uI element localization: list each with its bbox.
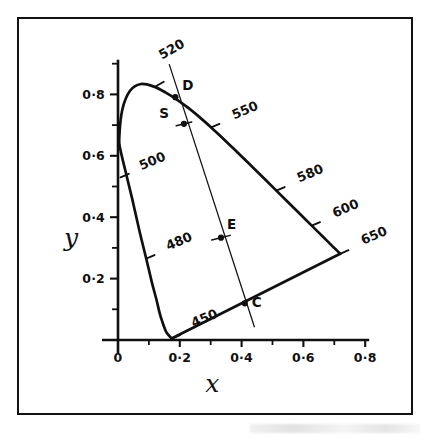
wavelength-tick bbox=[276, 187, 284, 191]
y-axis-title: y bbox=[63, 223, 79, 252]
wavelength-label: 450 bbox=[189, 306, 220, 330]
data-point-s[interactable] bbox=[181, 121, 187, 127]
y-tick-label: 0·6 bbox=[82, 148, 105, 163]
data-point-e[interactable] bbox=[218, 235, 224, 241]
figure-container: 00·20·40·60·80·20·40·60·8xy4504805005205… bbox=[0, 0, 432, 437]
x-tick-label: 0·4 bbox=[230, 350, 253, 365]
chromaticity-plot: 00·20·40·60·80·20·40·60·8xy4504805005205… bbox=[0, 0, 432, 437]
wavelength-label: 600 bbox=[330, 196, 361, 220]
x-axis-title: x bbox=[205, 369, 219, 398]
point-label-e: E bbox=[227, 216, 236, 232]
point-label-d: D bbox=[182, 77, 193, 93]
wavelength-label: 650 bbox=[358, 223, 389, 247]
y-tick-label: 0·8 bbox=[82, 87, 105, 102]
wavelength-tick bbox=[155, 82, 164, 87]
wavelength-label: 580 bbox=[295, 161, 326, 185]
spectral-locus-curve bbox=[119, 84, 340, 339]
x-tick-label: 0 bbox=[114, 350, 123, 365]
wavelength-label: 480 bbox=[164, 229, 195, 253]
x-tick-label: 0·6 bbox=[292, 350, 315, 365]
data-point-c[interactable] bbox=[242, 300, 248, 306]
wavelength-label: 550 bbox=[230, 98, 261, 122]
wavelength-tick bbox=[340, 250, 348, 254]
wavelength-tick bbox=[312, 222, 320, 226]
data-point-d[interactable] bbox=[172, 94, 178, 100]
wavelength-tick bbox=[146, 255, 154, 259]
wavelength-label: 520 bbox=[156, 36, 187, 63]
y-tick-label: 0·2 bbox=[82, 271, 105, 286]
x-tick-label: 0·8 bbox=[354, 350, 377, 365]
point-label-s: S bbox=[159, 105, 169, 121]
point-label-c: C bbox=[252, 294, 262, 310]
y-tick-label: 0·4 bbox=[82, 210, 105, 225]
x-tick-label: 0·2 bbox=[168, 350, 191, 365]
wavelength-tick bbox=[211, 124, 219, 128]
wavelength-label: 500 bbox=[137, 149, 168, 173]
page-artifact bbox=[250, 424, 420, 433]
